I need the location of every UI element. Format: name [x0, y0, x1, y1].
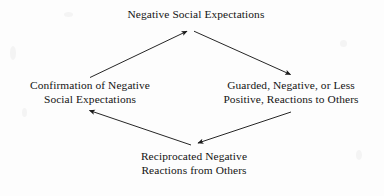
node-left-line-1: Confirmation of Negative: [4, 79, 176, 93]
node-negative-social-expectations: Negative Social Expectations: [96, 8, 296, 22]
arrow-top-to-right: [194, 31, 291, 74]
node-bottom-line-2: Reactions from Others: [104, 164, 284, 178]
node-left-line-2: Social Expectations: [4, 93, 176, 107]
cycle-diagram: Negative Social Expectations Confirmatio…: [0, 0, 384, 196]
node-bottom-line-1: Reciprocated Negative: [104, 150, 284, 164]
node-right-line-2: Positive, Reactions to Others: [200, 93, 382, 107]
arrow-left-to-top: [90, 31, 187, 77]
node-reciprocated-negative-reactions-from-others: Reciprocated Negative Reactions from Oth…: [104, 150, 284, 177]
node-guarded-negative-reactions-to-others: Guarded, Negative, or Less Positive, Rea…: [200, 79, 382, 106]
node-right-line-1: Guarded, Negative, or Less: [200, 79, 382, 93]
node-confirmation-of-negative-social-expectations: Confirmation of Negative Social Expectat…: [4, 79, 176, 106]
arrow-bottom-to-left: [90, 111, 192, 146]
node-top-line-1: Negative Social Expectations: [96, 8, 296, 22]
arrow-right-to-bottom: [198, 112, 291, 143]
